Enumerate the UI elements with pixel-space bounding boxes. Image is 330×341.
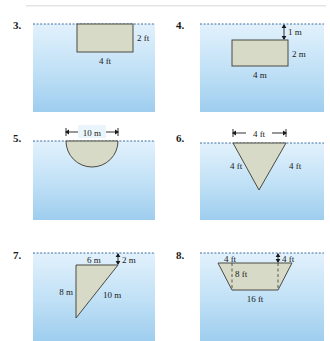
label-7-vertical-leg: 8 m bbox=[59, 287, 73, 297]
problem-number-4: 4. bbox=[176, 19, 184, 31]
label-4-depth: 1 m bbox=[288, 27, 302, 37]
label-8-bottom-width: 16 ft bbox=[247, 294, 264, 304]
problem-number-5: 5. bbox=[13, 132, 21, 144]
problem-number-7: 7. bbox=[13, 249, 21, 261]
problem-number-3: 3. bbox=[13, 19, 21, 31]
label-8-height: 8 ft bbox=[235, 269, 248, 279]
shape-rectangle-3 bbox=[77, 24, 133, 52]
figure-4: 1 m 2 m 4 m bbox=[200, 16, 324, 112]
top-divider-line-shadow bbox=[26, 6, 326, 7]
problem-number-8: 8. bbox=[176, 249, 184, 261]
figure-7: 2 m 6 m 8 m 10 m bbox=[33, 248, 155, 341]
label-7-depth: 2 m bbox=[122, 255, 136, 265]
problem-number-6: 6. bbox=[176, 132, 184, 144]
water-region-4 bbox=[200, 24, 324, 112]
figure-5: 10 m bbox=[33, 124, 155, 220]
figure-6: 4 ft 4 ft 4 ft bbox=[200, 124, 324, 220]
worksheet-page: 3. 2 ft 4 ft 4. bbox=[0, 0, 330, 341]
label-5-diameter: 10 m bbox=[83, 128, 101, 138]
label-6-top-width: 4 ft bbox=[253, 129, 266, 139]
label-7-top-width: 6 m bbox=[87, 255, 101, 265]
shape-rectangle-4 bbox=[232, 40, 288, 66]
label-6-left-side: 4 ft bbox=[230, 161, 243, 171]
label-4-width: 4 m bbox=[253, 70, 267, 80]
label-4-height: 2 m bbox=[292, 49, 306, 59]
label-3-width: 4 ft bbox=[99, 56, 112, 66]
label-6-right-side: 4 ft bbox=[289, 161, 302, 171]
figure-8: 4 ft 4 ft 8 ft 16 ft bbox=[200, 248, 324, 341]
label-7-hypotenuse: 10 m bbox=[103, 290, 121, 300]
label-3-height: 2 ft bbox=[137, 33, 150, 43]
figure-3: 2 ft 4 ft bbox=[33, 16, 155, 112]
